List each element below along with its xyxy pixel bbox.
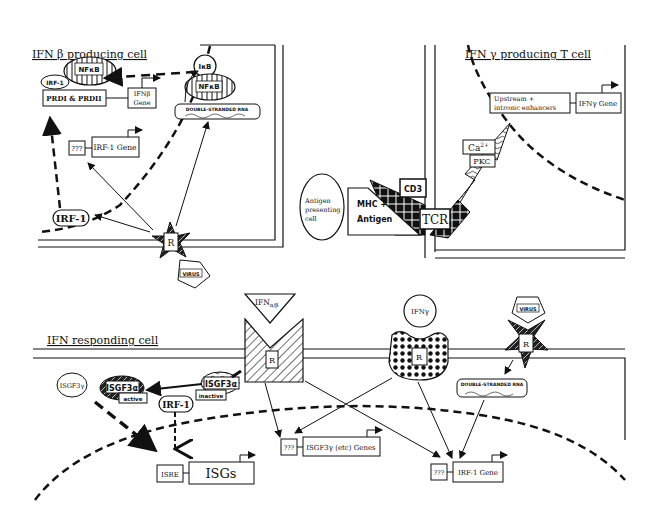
virus-responding-label: VIRUS: [519, 306, 537, 312]
irf1-protein-label: IRF-1: [56, 213, 87, 224]
receptor-ab-label: R: [269, 356, 276, 365]
isgf3a-inactive-label: ISGF3α: [205, 380, 237, 389]
irf1-responding-label: IRF-1: [162, 400, 190, 410]
responding-cell-panel: IFN responding cell IFNα/β R IFNγ R VIRU…: [33, 294, 625, 500]
unknown-box: ???: [71, 145, 83, 153]
unknown-box-2: ???: [434, 469, 445, 477]
apc-line2: presenting: [305, 206, 341, 214]
ifn-gamma-cell-panel: IFN γ producing T cell Upstream + intron…: [300, 45, 625, 258]
ifnb-gene-line1: IFNβ: [134, 90, 151, 98]
unknown-box-1: ???: [284, 444, 295, 452]
receptor-v-label: R: [523, 340, 530, 349]
apc-line1: Antigen: [304, 197, 331, 205]
isgf3a-active-label: ISGF3α: [106, 384, 138, 393]
receptor-g-label: R: [416, 353, 423, 362]
mhc-line2: Antigen: [357, 215, 393, 224]
panel-title-ifn-gamma: IFN γ producing T cell: [465, 48, 592, 61]
prdi-label: PRDI & PRDII: [46, 94, 101, 103]
enhancers-line1: Upstream +: [494, 95, 534, 103]
mhc-line1: MHC +: [357, 200, 387, 209]
irf1-small-label: IRF-1: [46, 79, 63, 86]
transcription-arrow: [142, 78, 160, 88]
nfkb-cyto-label: NFκB: [199, 83, 220, 91]
enhancers-line2: intronic enhancers: [494, 104, 556, 112]
isre-label: ISRE: [161, 471, 179, 479]
ifn-signaling-diagram: IFN β producing cell NFκB IRF-1 PRDI & P…: [0, 0, 654, 532]
panel-title-responding: IFN responding cell: [47, 334, 159, 347]
active-label: active: [124, 396, 143, 402]
receptor-label: R: [168, 238, 175, 248]
apc-line3: cell: [305, 215, 317, 223]
tcr-label: TCR: [422, 213, 449, 227]
irf1-gene-label: IRF-1 Gene: [94, 143, 137, 152]
virus-label: VIRUS: [182, 271, 200, 277]
ikb-label: IκB: [199, 63, 212, 71]
dsrna-responding-label: DOUBLE-STRANDED RNA: [461, 382, 524, 387]
dsrna-label: DOUBLE-STRANDED RNA: [186, 107, 249, 112]
isgf3g-label: ISGF3γ: [60, 382, 85, 390]
isgf3g-genes-label: ISGF3γ (etc) Genes: [306, 444, 376, 452]
cd3-label: CD3: [404, 185, 422, 194]
ifng-gene-label: IFNγ Gene: [579, 100, 618, 108]
ifnb-gene-line2: Gene: [133, 99, 150, 107]
ifn-beta-cell-panel: IFN β producing cell NFκB IRF-1 PRDI & P…: [32, 45, 283, 288]
inactive-label: inactive: [199, 393, 224, 399]
ifn-g-label: IFNγ: [411, 308, 429, 316]
isgs-label: ISGs: [205, 466, 236, 481]
irf1-gene-responding-label: IRF-1 Gene: [458, 469, 498, 477]
nfkb-nucleus-label: NFκB: [79, 66, 100, 74]
pkc-label: PKC: [473, 157, 490, 166]
ifn-alpha-beta-ligand: [245, 294, 295, 323]
